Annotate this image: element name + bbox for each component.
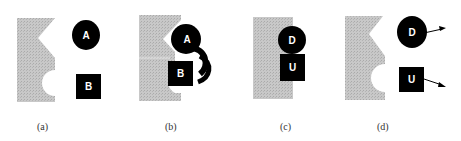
caption-b: (b) [165,121,177,132]
circle-label: A [183,34,190,45]
square-label: U [289,62,296,73]
panel-a: A B [17,18,101,102]
square-label: B [85,81,92,92]
figure-canvas: A B A B D U D U [0,0,461,141]
circle-label: D [288,35,295,46]
caption-d: (d) [377,121,389,132]
obstacle-shape [17,18,55,102]
circle-label: A [82,30,89,41]
caption-c: (c) [280,121,291,132]
arrowhead-icon [439,26,446,31]
panel-d: D U [345,16,446,100]
panel-b: A B [139,15,209,101]
circle-label: D [408,27,415,38]
panel-c: D U [253,17,306,99]
arrowhead-icon [438,82,446,87]
caption-a: (a) [37,121,48,132]
obstacle-shape [345,16,385,100]
square-label: U [408,74,415,85]
square-label: B [177,68,184,79]
